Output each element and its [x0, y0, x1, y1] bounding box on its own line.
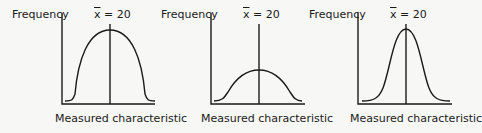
panel1-x-label: Measured characteristic [55, 112, 187, 125]
panel3-x-label: Measured characteristic [350, 112, 482, 125]
panel1-y-label: Frequency [12, 8, 69, 21]
panel3-mean-value: = 20 [397, 8, 427, 21]
panel2-curve [214, 70, 302, 101]
panel2-mean-value: = 20 [250, 8, 280, 21]
panel2-x-label: Measured characteristic [201, 112, 333, 125]
panel1-mean-value: = 20 [101, 8, 131, 21]
panel3-y-label: Frequency [309, 8, 366, 21]
panel3-axes [358, 13, 452, 104]
panel3-mean-label: x = 20 [390, 8, 427, 21]
panel2-y-label: Frequency [161, 8, 218, 21]
panel1-mean-label: x = 20 [94, 8, 131, 21]
panel2-axes [211, 13, 305, 104]
panel2-mean-label: x = 20 [243, 8, 280, 21]
